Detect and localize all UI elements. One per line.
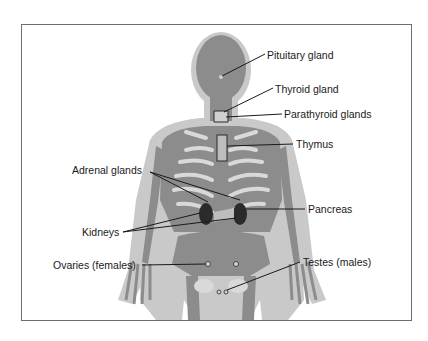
- label-parathyroid-glands: Parathyroid glands: [284, 108, 372, 120]
- left-testis: [217, 290, 221, 294]
- left-ovary: [206, 262, 211, 267]
- label-testes: Testes (males): [303, 256, 371, 268]
- label-adrenal-glands: Adrenal glands: [72, 164, 142, 176]
- label-ovaries: Ovaries (females): [53, 259, 136, 271]
- right-ovary: [234, 262, 239, 267]
- label-thyroid-gland: Thyroid gland: [275, 83, 339, 95]
- thymus-gland: [217, 135, 227, 161]
- thyroid-gland: [214, 111, 228, 122]
- label-thymus: Thymus: [296, 138, 333, 150]
- label-pancreas: Pancreas: [308, 203, 352, 215]
- right-kidney: [233, 203, 247, 225]
- label-pituitary-gland: Pituitary gland: [267, 49, 334, 61]
- right-testis: [224, 290, 228, 294]
- label-kidneys: Kidneys: [82, 226, 119, 238]
- body-illustration: [0, 0, 428, 341]
